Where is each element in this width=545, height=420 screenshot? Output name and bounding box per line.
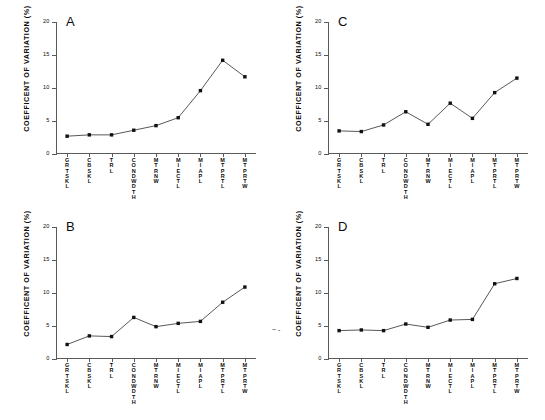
data-point-marker: CONDWDTH: 3.6 bbox=[132, 129, 135, 132]
data-point-marker: MTPRTW: 10.9 bbox=[243, 285, 246, 288]
x-axis-category-label: MTPRTL bbox=[220, 363, 225, 395]
y-tick-label: 5 bbox=[318, 117, 321, 123]
x-axis-category-label: MIECTL bbox=[176, 158, 181, 190]
data-point-marker: MTPRTL: 11.4 bbox=[493, 282, 496, 285]
data-point-marker: TRL: 4.4 bbox=[382, 123, 385, 126]
stray-dash-mark: ~ - bbox=[272, 328, 284, 332]
y-tick: 0 bbox=[324, 154, 329, 155]
chart-panel-d: COEFFICENT OF VARIATION (%) D 05101520GR… bbox=[276, 207, 538, 415]
chart-panel-a: COEFFICENT OF VARIATION (%) A 05101520GR… bbox=[4, 2, 266, 210]
data-point-marker: MTRNW: 4.9 bbox=[154, 325, 157, 328]
data-point-marker: MIECTL: 5.5 bbox=[177, 116, 180, 119]
data-point-marker: GRTSKL: 4.3 bbox=[337, 329, 340, 332]
x-axis-category-label: MIECTL bbox=[176, 363, 181, 395]
y-axis-title: COEFFICENT OF VARIATION (%) bbox=[22, 208, 31, 340]
x-axis-category-label: MTPRTL bbox=[492, 363, 497, 395]
y-tick-label: 5 bbox=[318, 322, 321, 328]
x-axis-category-label: MTRNW bbox=[153, 158, 158, 184]
y-tick-label: 20 bbox=[315, 18, 322, 24]
data-point-marker: MTPRTW: 11.7 bbox=[243, 75, 246, 78]
plot-area: 05101520GRTSKLCBSKLTRLCONDWDTHMTRNWMIECT… bbox=[56, 22, 256, 154]
data-series: GRTSKL: 2.2CBSKL: 3.5TRL: 3.4CONDWDTH: 6… bbox=[56, 227, 256, 359]
data-point-marker: MTPRTL: 8.6 bbox=[221, 301, 224, 304]
y-tick-label: 15 bbox=[43, 256, 50, 262]
data-point-marker: TRL: 2.9 bbox=[110, 133, 113, 136]
x-axis-category-label: MTPRTL bbox=[220, 158, 225, 190]
data-point-marker: GRTSKL: 2.7 bbox=[65, 134, 68, 137]
y-tick-label: 10 bbox=[43, 84, 50, 90]
series-line bbox=[339, 278, 517, 330]
data-point-marker: GRTSKL: 2.2 bbox=[65, 343, 68, 346]
y-tick-label: 0 bbox=[318, 355, 321, 361]
data-point-marker: MTRNW: 4.5 bbox=[426, 123, 429, 126]
data-point-marker: MTRNW: 4.3 bbox=[154, 124, 157, 127]
x-axis-category-label: MIECTL bbox=[448, 363, 453, 395]
y-tick-label: 20 bbox=[315, 223, 322, 229]
x-axis-category-label: MIAPL bbox=[470, 158, 475, 184]
x-axis-category-label: MTPRTW bbox=[514, 158, 519, 190]
figure-canvas: COEFFICENT OF VARIATION (%) A 05101520GR… bbox=[0, 0, 545, 420]
x-axis-category-label: MIAPL bbox=[198, 363, 203, 389]
x-axis-category-label: MTPRTW bbox=[242, 363, 247, 395]
x-axis-category-label: GRTSKL bbox=[65, 363, 69, 395]
x-axis-category-label: MTPRTW bbox=[242, 158, 247, 190]
data-point-marker: CBSKL: 4.4 bbox=[360, 328, 363, 331]
data-point-marker: CBSKL: 3.4 bbox=[360, 130, 363, 133]
data-point-marker: CONDWDTH: 6.4 bbox=[404, 110, 407, 113]
y-tick-label: 0 bbox=[318, 150, 321, 156]
data-point-marker: GRTSKL: 3.5 bbox=[337, 129, 340, 132]
x-axis-category-label: CBSKL bbox=[359, 363, 363, 389]
x-axis-category-label: TRL bbox=[382, 158, 386, 174]
y-tick-label: 20 bbox=[43, 18, 50, 24]
x-axis-category-label: TRL bbox=[382, 363, 386, 379]
data-point-marker: CBSKL: 2.9 bbox=[88, 133, 91, 136]
y-tick-label: 15 bbox=[315, 51, 322, 57]
data-point-marker: TRL: 4.3 bbox=[382, 329, 385, 332]
y-tick-label: 0 bbox=[46, 355, 49, 361]
data-point-marker: CBSKL: 3.5 bbox=[88, 334, 91, 337]
data-point-marker: MIECTL: 7.7 bbox=[449, 101, 452, 104]
data-point-marker: CONDWDTH: 6.3 bbox=[132, 316, 135, 319]
y-axis-title: COEFFICENT OF VARIATION (%) bbox=[22, 3, 31, 135]
y-axis-title: COEFFICENT OF VARIATION (%) bbox=[294, 3, 303, 135]
data-point-marker: MIECTL: 5.4 bbox=[177, 322, 180, 325]
data-point-marker: TRL: 3.4 bbox=[110, 335, 113, 338]
data-point-marker: MIAPL: 5.7 bbox=[199, 320, 202, 323]
x-axis-category-label: MTPRTW bbox=[514, 363, 519, 395]
y-tick-label: 5 bbox=[46, 322, 49, 328]
data-series: GRTSKL: 3.5CBSKL: 3.4TRL: 4.4CONDWDTH: 6… bbox=[328, 22, 528, 154]
x-axis-category-label: MIAPL bbox=[470, 363, 475, 389]
y-axis-title: COEFFICENT OF VARIATION (%) bbox=[294, 208, 303, 340]
plot-area: 05101520GRTSKLCBSKLTRLCONDWDTHMTRNWMIECT… bbox=[56, 227, 256, 359]
data-point-marker: MIAPL: 6 bbox=[471, 318, 474, 321]
x-axis-category-label: TRL bbox=[110, 158, 114, 174]
x-axis-category-label: CONDWDTH bbox=[131, 158, 136, 200]
x-axis-category-label: GRTSKL bbox=[65, 158, 69, 190]
data-point-marker: MIECTL: 5.9 bbox=[449, 318, 452, 321]
y-tick-label: 15 bbox=[43, 51, 50, 57]
y-tick: 0 bbox=[52, 359, 57, 360]
data-point-marker: CONDWDTH: 5.3 bbox=[404, 322, 407, 325]
x-axis-category-label: GRTSKL bbox=[337, 363, 341, 395]
x-axis-category-label: MTPRTL bbox=[492, 158, 497, 190]
x-axis-category-label: CONDWDTH bbox=[131, 363, 136, 405]
y-tick-label: 10 bbox=[315, 84, 322, 90]
x-axis-category-label: MTRNW bbox=[425, 158, 430, 184]
series-line bbox=[67, 287, 245, 344]
x-axis-category-label: TRL bbox=[110, 363, 114, 379]
x-axis-category-label: MTRNW bbox=[153, 363, 158, 389]
data-point-marker: MTPRTW: 12.2 bbox=[515, 277, 518, 280]
x-axis-category-label: GRTSKL bbox=[337, 158, 341, 190]
x-axis-category-label: CONDWDTH bbox=[403, 158, 408, 200]
data-point-marker: MIAPL: 9.6 bbox=[199, 89, 202, 92]
data-series: GRTSKL: 2.7CBSKL: 2.9TRL: 2.9CONDWDTH: 3… bbox=[56, 22, 256, 154]
x-axis-category-label: MTRNW bbox=[425, 363, 430, 389]
y-tick: 0 bbox=[52, 154, 57, 155]
y-tick-label: 20 bbox=[43, 223, 50, 229]
data-point-marker: MTPRTL: 9.3 bbox=[493, 91, 496, 94]
x-axis-category-label: MIECTL bbox=[448, 158, 453, 190]
data-point-marker: MTPRTL: 14.2 bbox=[221, 59, 224, 62]
data-point-marker: MTPRTW: 11.5 bbox=[515, 76, 518, 79]
chart-panel-b: COEFFICENT OF VARIATION (%) B 05101520GR… bbox=[4, 207, 266, 415]
y-tick-label: 10 bbox=[43, 289, 50, 295]
